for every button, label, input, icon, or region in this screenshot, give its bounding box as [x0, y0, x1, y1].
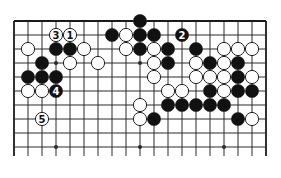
- star-point: [54, 145, 58, 149]
- stone-disc: [147, 70, 160, 83]
- stone-disc: [217, 42, 230, 55]
- stone-disc: [231, 42, 244, 55]
- move-number-label: 4: [53, 86, 60, 97]
- stone-disc: [63, 56, 76, 69]
- black-stone: [49, 70, 62, 83]
- stone-disc: [161, 42, 174, 55]
- white-stone: [245, 70, 258, 83]
- black-stone: [147, 112, 160, 125]
- stone-disc: [147, 42, 160, 55]
- go-board-diagram: 31245: [0, 0, 281, 178]
- stone-disc: [161, 56, 174, 69]
- stone-disc: [21, 42, 34, 55]
- white-stone: [119, 42, 132, 55]
- stone-disc: [49, 42, 62, 55]
- stone-disc: [245, 84, 258, 97]
- black-stone: [133, 14, 146, 27]
- white-stone: [231, 42, 244, 55]
- stone-disc: [217, 84, 230, 97]
- white-stone: [217, 56, 230, 69]
- numbered-black-stone: 2: [175, 28, 188, 41]
- white-stone: [245, 42, 258, 55]
- white-stone: [203, 70, 216, 83]
- star-point: [138, 61, 142, 65]
- stone-disc: [245, 112, 258, 125]
- white-stone: [147, 70, 160, 83]
- white-stone: [245, 112, 258, 125]
- move-number-label: 5: [39, 114, 46, 125]
- white-stone: [147, 56, 160, 69]
- black-stone: [49, 42, 62, 55]
- stone-disc: [203, 98, 216, 111]
- stone-disc: [119, 28, 132, 41]
- black-stone: [161, 98, 174, 111]
- stone-disc: [161, 98, 174, 111]
- white-stone: [217, 70, 230, 83]
- white-stone: [217, 84, 230, 97]
- white-stone: [133, 98, 146, 111]
- stone-disc: [133, 98, 146, 111]
- stone-disc: [147, 112, 160, 125]
- black-stone: [133, 28, 146, 41]
- white-stone: [189, 56, 202, 69]
- stone-disc: [203, 70, 216, 83]
- stone-disc: [35, 56, 48, 69]
- white-stone: [35, 84, 48, 97]
- black-stone: [217, 98, 230, 111]
- white-stone: [217, 42, 230, 55]
- black-stone: [35, 70, 48, 83]
- stone-disc: [245, 70, 258, 83]
- black-stone: [161, 56, 174, 69]
- stone-disc: [77, 42, 90, 55]
- black-stone: [203, 98, 216, 111]
- white-stone: [189, 70, 202, 83]
- white-stone: [63, 56, 76, 69]
- stone-disc: [105, 28, 118, 41]
- stone-disc: [245, 42, 258, 55]
- move-number-label: 3: [53, 30, 60, 41]
- move-number-label: 1: [67, 30, 74, 41]
- black-stone: [147, 28, 160, 41]
- stone-disc: [175, 84, 188, 97]
- white-stone: [91, 56, 104, 69]
- white-stone: [21, 42, 34, 55]
- black-stone: [35, 56, 48, 69]
- stone-disc: [35, 70, 48, 83]
- stone-disc: [35, 84, 48, 97]
- white-stone: [77, 42, 90, 55]
- stone-disc: [175, 98, 188, 111]
- stone-disc: [217, 56, 230, 69]
- star-point: [222, 145, 226, 149]
- white-stone: [119, 28, 132, 41]
- stone-disc: [189, 56, 202, 69]
- white-stone: [133, 112, 146, 125]
- stone-disc: [203, 56, 216, 69]
- numbered-white-stone: 3: [49, 28, 62, 41]
- black-stone: [203, 56, 216, 69]
- numbered-white-stone: 1: [63, 28, 76, 41]
- stone-disc: [161, 84, 174, 97]
- black-stone: [105, 28, 118, 41]
- white-stone: [175, 84, 188, 97]
- stone-disc: [231, 112, 244, 125]
- numbered-white-stone: 5: [35, 112, 48, 125]
- black-stone: [161, 42, 174, 55]
- black-stone: [21, 70, 34, 83]
- stone-disc: [63, 42, 76, 55]
- stone-disc: [217, 98, 230, 111]
- stone-disc: [231, 70, 244, 83]
- stone-disc: [231, 56, 244, 69]
- stone-disc: [189, 42, 202, 55]
- stone-disc: [133, 112, 146, 125]
- white-stone: [161, 84, 174, 97]
- black-stone: [231, 70, 244, 83]
- stone-disc: [133, 28, 146, 41]
- move-number-label: 2: [179, 30, 186, 41]
- black-stone: [189, 98, 202, 111]
- white-stone: [147, 42, 160, 55]
- stone-disc: [189, 98, 202, 111]
- stone-disc: [119, 42, 132, 55]
- white-stone: [21, 84, 34, 97]
- black-stone: [133, 42, 146, 55]
- stone-disc: [147, 28, 160, 41]
